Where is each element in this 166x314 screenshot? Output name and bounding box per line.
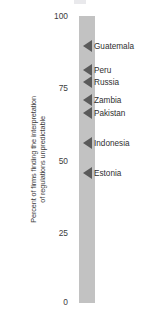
left-triangle-icon (83, 107, 92, 119)
data-marker-label: Zambia (94, 96, 121, 105)
data-marker-zambia: Zambia (83, 94, 121, 106)
data-marker-guatemala: Guatemala (83, 40, 134, 52)
data-marker-estonia: Estonia (83, 167, 121, 179)
y-tick-label-0: 0 (34, 298, 68, 307)
left-triangle-icon (83, 94, 92, 106)
y-tick-label-50: 50 (34, 157, 68, 166)
data-marker-pakistan: Pakistan (83, 107, 125, 119)
left-triangle-icon (83, 167, 92, 179)
y-tick-label-100: 100 (34, 12, 68, 21)
data-marker-indonesia: Indonesia (83, 137, 130, 149)
chart-container: Percent of firms finding the interpretat… (0, 0, 166, 314)
y-tick-label-25: 25 (34, 229, 68, 238)
data-marker-label: Guatemala (94, 42, 134, 51)
data-marker-label: Russia (94, 78, 119, 87)
left-triangle-icon (83, 76, 92, 88)
y-tick-label-75: 75 (34, 84, 68, 93)
data-marker-label: Indonesia (94, 139, 130, 148)
clipped-top-artifact (74, 0, 86, 4)
data-marker-label: Peru (94, 66, 111, 75)
data-marker-russia: Russia (83, 76, 119, 88)
data-marker-label: Pakistan (94, 109, 125, 118)
left-triangle-icon (83, 40, 92, 52)
data-marker-label: Estonia (94, 169, 121, 178)
y-axis-tick-labels: 100 75 50 25 0 (34, 0, 68, 314)
left-triangle-icon (83, 64, 92, 76)
data-marker-peru: Peru (83, 64, 111, 76)
value-range-bar (79, 16, 95, 303)
left-triangle-icon (83, 137, 92, 149)
